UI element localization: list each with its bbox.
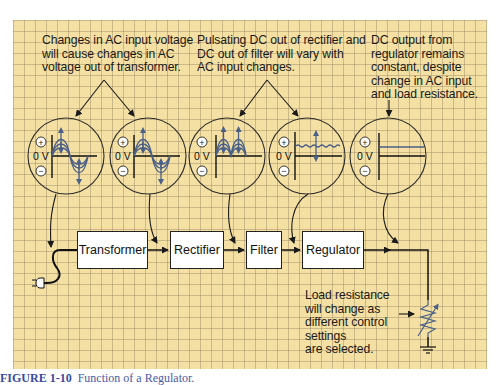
- figure-caption-text: Function of a Regulator.: [78, 371, 195, 385]
- svg-text:+: +: [362, 138, 367, 148]
- scope-regulator-out: + − 0 V: [357, 133, 425, 180]
- power-plug-icon: [32, 250, 77, 288]
- block-transformer: Transformer: [77, 231, 148, 269]
- svg-text:−: −: [38, 166, 43, 176]
- figure-caption: FIGURE 1-10 Function of a Regulator.: [0, 371, 194, 385]
- diagram-graphics: + − 0 V + − 0 V: [0, 0, 503, 385]
- block-filter: Filter: [246, 231, 282, 269]
- svg-text:+: +: [120, 138, 125, 148]
- svg-text:−: −: [199, 166, 204, 176]
- scope-filter-out: + − 0 V: [276, 132, 342, 180]
- svg-text:+: +: [199, 138, 204, 148]
- svg-text:+: +: [281, 138, 286, 148]
- svg-text:−: −: [120, 166, 125, 176]
- svg-text:0 V: 0 V: [194, 150, 210, 162]
- block-rectifier: Rectifier: [170, 231, 224, 269]
- svg-text:0 V: 0 V: [276, 150, 292, 162]
- svg-text:+: +: [38, 138, 43, 148]
- ground-icon: [420, 347, 436, 353]
- scope-transformer-out: + − 0 V: [115, 130, 180, 182]
- svg-text:0 V: 0 V: [357, 150, 373, 162]
- svg-text:0 V: 0 V: [33, 150, 49, 162]
- callout-arrows: [76, 80, 389, 116]
- variable-resistor-icon: [418, 300, 437, 337]
- figure-caption-label: FIGURE 1-10: [0, 371, 72, 385]
- svg-text:−: −: [281, 166, 286, 176]
- block-regulator: Regulator: [302, 231, 364, 269]
- scope-ac-input: + − 0 V: [33, 130, 97, 182]
- regulator-diagram: Changes in AC input voltage will cause c…: [0, 0, 503, 385]
- svg-text:−: −: [362, 166, 367, 176]
- scope-rectifier-out: + − 0 V: [194, 129, 262, 178]
- svg-text:0 V: 0 V: [115, 150, 131, 162]
